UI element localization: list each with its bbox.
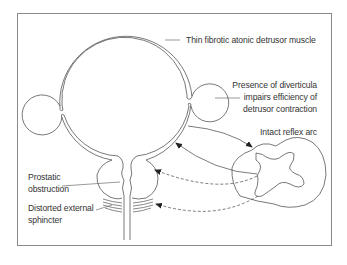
afferent-arrow <box>188 126 252 147</box>
label-diverticula-2: impairs efficiency of <box>244 92 317 103</box>
reflex-arc <box>155 126 258 211</box>
efferent-arrow-sphincter <box>156 196 258 211</box>
efferent-arrow-bladder <box>176 143 257 174</box>
label-diverticula-1: Presence of diverticula <box>232 80 317 91</box>
label-reflex-arc: Intact reflex arc <box>260 127 317 138</box>
label-sphincter-1: Distorted external <box>28 203 94 214</box>
right-diverticulum <box>191 84 229 122</box>
label-prostatic-2: obstruction <box>28 184 69 195</box>
prostate <box>97 160 158 199</box>
bladder-wall <box>60 36 192 160</box>
label-prostatic-1: Prostatic <box>28 172 61 183</box>
prostatic-leader <box>62 182 120 186</box>
label-detrusor: Thin fibrotic atonic detrusor muscle <box>186 35 316 46</box>
left-diverticulum <box>22 95 62 135</box>
label-sphincter-2: sphincter <box>28 215 62 226</box>
spinal-cord-grey-matter <box>255 152 304 196</box>
urethra <box>118 156 137 240</box>
spinal-cord-outline <box>232 137 326 207</box>
label-diverticula-3: detrusor contraction <box>243 104 317 115</box>
